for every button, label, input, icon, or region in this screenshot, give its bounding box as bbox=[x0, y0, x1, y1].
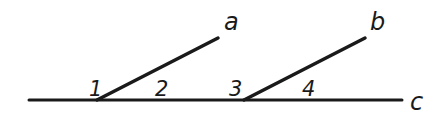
line-label-c: c bbox=[410, 88, 423, 116]
angle-label-1: 1 bbox=[89, 77, 102, 101]
line-label-a: a bbox=[224, 8, 239, 36]
angle-label-3: 3 bbox=[229, 77, 242, 101]
line-label-b: b bbox=[370, 8, 385, 36]
angle-label-4: 4 bbox=[302, 77, 315, 101]
angle-label-2: 2 bbox=[155, 77, 168, 101]
geometry-diagram: a b c 1 2 3 4 bbox=[0, 0, 442, 119]
diagram-canvas: a b c 1 2 3 4 bbox=[0, 0, 442, 119]
